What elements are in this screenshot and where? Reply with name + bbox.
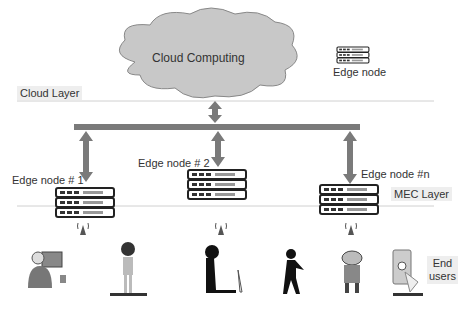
arrow-node-2 <box>211 131 225 167</box>
end-users-line2: users <box>429 270 456 283</box>
cloud-layer-label: Cloud Layer <box>17 86 82 100</box>
mec-layer-label: MEC Layer <box>391 187 452 201</box>
cloud-link-arrow <box>208 101 222 123</box>
user-laptop-icon <box>205 245 242 293</box>
edge-node-2-server <box>188 170 246 199</box>
arrow-node-n <box>343 131 357 184</box>
edge-node-2-label: Edge node # 2 <box>138 157 210 169</box>
legend-server-icon <box>337 47 369 63</box>
end-users-label: End users <box>427 256 458 284</box>
user-woman-phone-icon <box>110 242 147 296</box>
legend-edge-node-label: Edge node <box>333 66 386 78</box>
end-users-line1: End <box>429 257 456 270</box>
edge-node-1-label: Edge node # 1 <box>12 174 84 186</box>
edge-node-n-label: Edge node #n <box>361 168 430 180</box>
user-walking-icon <box>283 249 304 294</box>
diagram-canvas <box>0 0 469 314</box>
edge-node-1-server <box>56 188 114 217</box>
edge-node-n-server <box>320 185 378 214</box>
user-desktop-icon <box>28 252 66 288</box>
cloud-label: Cloud Computing <box>152 51 245 65</box>
backbone-bar <box>74 124 360 130</box>
user-smartphone-icon <box>393 250 423 296</box>
user-robot-icon <box>342 251 362 293</box>
